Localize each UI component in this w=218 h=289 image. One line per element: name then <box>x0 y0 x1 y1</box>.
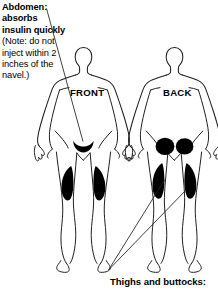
front-hip-right-outline <box>99 131 112 148</box>
right-thigh-patch-site <box>93 166 105 200</box>
back-left-hand-outline <box>125 146 135 161</box>
front-head-outline-right <box>84 48 92 76</box>
back-waist-left-outline <box>151 88 160 90</box>
front-right-leg-outer-outline <box>101 152 111 263</box>
back-right-leg-outer-outline <box>192 152 202 263</box>
front-crotch-outline-right <box>83 153 90 160</box>
left-buttock-circle-site <box>156 138 175 155</box>
left-back-thigh-patch-site <box>152 163 164 199</box>
front-left-foot-outline <box>57 261 69 273</box>
back-head-outline <box>166 48 174 76</box>
back-right-foot-outline <box>189 261 201 273</box>
front-torso-right-outline <box>91 75 129 147</box>
back-left-leg-outer-outline <box>147 152 157 263</box>
front-waist-left-outline <box>60 88 69 90</box>
front-head-outline <box>75 48 83 76</box>
abdomen-crescent-site <box>73 141 93 153</box>
front-left-hand-outline <box>34 146 44 161</box>
back-right-inner-arm-outline <box>198 90 208 149</box>
right-buttock-circle-site <box>176 138 194 154</box>
front-torso-left-outline <box>38 75 76 147</box>
back-torso-left-outline <box>129 75 167 147</box>
back-left-foot-outline <box>148 261 160 273</box>
back-figure-label: BACK <box>163 87 192 98</box>
front-hip-left-outline <box>55 131 68 148</box>
abdomen-callout: Abdomen: absorbs insulin quickly (Note: … <box>2 2 66 82</box>
back-crotch-outline-right <box>174 153 181 160</box>
left-thigh-patch-site <box>61 166 73 200</box>
front-left-armpit-outline <box>47 149 52 158</box>
thighs-and-buttocks-callout-label: Thighs and buttocks: <box>110 276 206 287</box>
front-right-inner-arm-outline <box>107 90 117 149</box>
back-right-armpit-outline <box>206 149 211 158</box>
front-left-inner-arm-outline <box>49 90 59 149</box>
front-left-leg-outer-outline <box>56 152 66 263</box>
abdomen-callout-note: (Note: do not inject within 2 inches of … <box>2 36 66 82</box>
back-torso-right-outline <box>182 75 218 147</box>
thighs-leader-line-lower <box>109 190 187 270</box>
back-right-hand-outline <box>214 146 218 161</box>
insulin-injection-site-diagram: Abdomen: absorbs insulin quickly (Note: … <box>0 0 218 289</box>
front-figure-label: FRONT <box>70 87 104 98</box>
abdomen-callout-heading: Abdomen: absorbs insulin quickly <box>2 2 66 36</box>
back-head-outline-right <box>175 48 183 76</box>
front-right-foot-outline <box>98 261 110 273</box>
thighs-leader-line-upper <box>109 180 165 270</box>
back-left-inner-arm-outline <box>140 90 150 149</box>
back-left-armpit-outline <box>138 149 143 158</box>
right-back-thigh-patch-site <box>184 163 196 199</box>
front-right-armpit-outline <box>115 149 120 158</box>
front-crotch-outline <box>77 153 84 160</box>
